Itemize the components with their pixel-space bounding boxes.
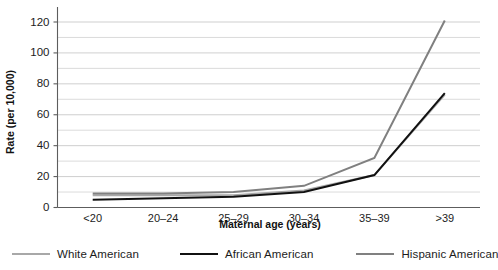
y-axis-title: Rate (per 10,000) — [4, 70, 16, 154]
y-tick-label: 20 — [37, 170, 50, 182]
legend-color-swatch — [12, 253, 50, 255]
legend-label: White American — [57, 248, 139, 260]
gridlines-group — [58, 22, 481, 208]
x-tick-label: 20–24 — [148, 212, 179, 224]
ytick-labels-group: 020406080100120 — [30, 16, 49, 214]
legend-label: Hispanic American — [401, 248, 498, 260]
y-tick-label: 60 — [37, 108, 50, 120]
legend-color-swatch — [356, 253, 394, 255]
legend-item[interactable]: African American — [180, 248, 314, 260]
y-tick-label: 100 — [30, 46, 49, 58]
line-chart-svg: 020406080100120 <2020–2425–2930–3435–39>… — [0, 0, 488, 232]
series-line-white-american — [93, 95, 445, 195]
x-tick-label: 35–39 — [359, 212, 390, 224]
series-group — [93, 20, 445, 199]
y-tick-label: 40 — [37, 139, 50, 151]
y-tick-label: 120 — [30, 16, 49, 28]
x-axis-title: Maternal age (years) — [219, 218, 321, 230]
legend-item[interactable]: White American — [12, 248, 139, 260]
chart-legend: White AmericanAfrican AmericanHispanic A… — [0, 242, 488, 266]
legend-label: African American — [225, 248, 314, 260]
legend-color-swatch — [180, 253, 218, 255]
x-tick-label: >39 — [435, 212, 454, 224]
y-tick-label: 80 — [37, 77, 50, 89]
legend-item[interactable]: Hispanic American — [356, 248, 498, 260]
y-tick-label: 0 — [43, 201, 49, 213]
x-tick-label: <20 — [83, 212, 102, 224]
series-line-hispanic-american — [93, 20, 445, 193]
plot-area: 020406080100120 <2020–2425–2930–3435–39>… — [0, 0, 488, 232]
series-line-african-american — [93, 93, 445, 200]
